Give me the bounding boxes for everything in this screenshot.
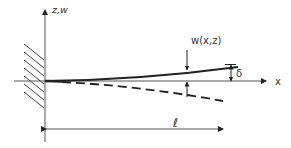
x-axis-label: x bbox=[275, 76, 281, 87]
deflected-beam-dashed bbox=[62, 82, 223, 101]
deflection-label: w(x,z) bbox=[191, 35, 221, 46]
deflected-beam-solid bbox=[45, 67, 238, 81]
beam-root-thick bbox=[45, 81, 62, 82]
fixed-wall bbox=[24, 44, 44, 108]
delta-label: δ bbox=[236, 68, 242, 79]
length-label: ℓ bbox=[172, 116, 178, 130]
cantilever-diagram: z,w x w(x,z) δ ℓ bbox=[0, 0, 291, 148]
z-axis-label: z,w bbox=[51, 4, 68, 15]
